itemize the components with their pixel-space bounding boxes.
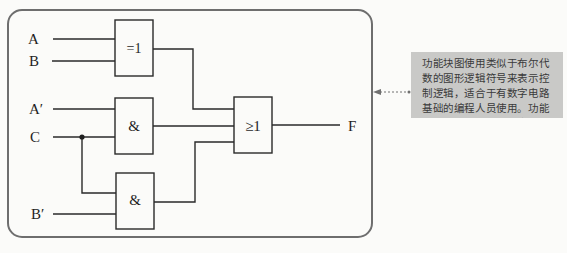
diagram-frame — [8, 10, 372, 237]
xor-gate-symbol: =1 — [127, 41, 142, 56]
and-gate-2-symbol: & — [129, 192, 141, 208]
wire-xor-to-or — [153, 49, 234, 109]
diagram-canvas: A B A′ C B′ =1 & & ≥1 F 功能块图使用类似于布尔代数的图形… — [0, 0, 567, 253]
input-label-c: C — [30, 129, 40, 145]
wire-c-branch — [82, 137, 116, 193]
input-label-b-prime: B′ — [31, 206, 44, 222]
or-gate-symbol: ≥1 — [245, 118, 261, 134]
callout-arrowhead-icon — [373, 89, 381, 95]
junction-dot — [79, 134, 84, 139]
wire-and2-to-or — [154, 142, 234, 202]
callout-text: 功能块图使用类似于布尔代数的图形逻辑符号来表示控制逻辑，适合于有数字电路基础的编… — [422, 57, 549, 118]
and-gate-1-symbol: & — [128, 118, 140, 134]
callout-box: 功能块图使用类似于布尔代数的图形逻辑符号来表示控制逻辑，适合于有数字电路基础的编… — [411, 52, 563, 118]
input-label-b: B — [29, 53, 39, 69]
output-label-f: F — [348, 118, 356, 134]
input-label-a: A — [28, 31, 39, 47]
input-label-a-prime: A′ — [29, 101, 43, 117]
logic-diagram: A B A′ C B′ =1 & & ≥1 F — [0, 0, 567, 253]
